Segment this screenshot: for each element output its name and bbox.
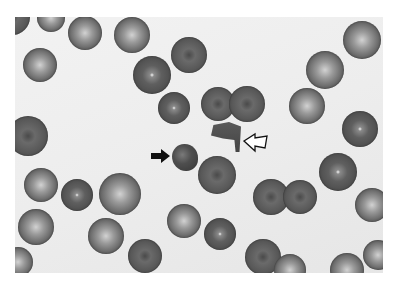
red-blood-cell <box>158 92 190 124</box>
red-blood-cell <box>15 17 30 35</box>
red-blood-cell <box>363 240 383 270</box>
red-blood-cell <box>114 17 150 53</box>
red-blood-cell <box>99 173 141 215</box>
irregular-granular-cell <box>172 144 198 171</box>
micrograph-photo <box>15 17 383 273</box>
red-blood-cell <box>229 86 265 122</box>
red-blood-cell <box>37 17 65 32</box>
red-blood-cell <box>61 179 93 211</box>
red-blood-cell <box>133 56 171 94</box>
outline-arrow-icon <box>243 133 269 155</box>
red-blood-cell <box>198 156 236 194</box>
red-blood-cell <box>171 37 207 73</box>
red-blood-cell <box>88 218 124 254</box>
red-blood-cell <box>15 247 33 273</box>
red-blood-cell <box>68 17 102 50</box>
red-blood-cell <box>274 254 306 273</box>
red-blood-cell <box>167 204 201 238</box>
red-blood-cell <box>283 180 317 214</box>
red-blood-cell <box>319 153 357 191</box>
red-blood-cell <box>342 111 378 147</box>
red-blood-cell <box>343 21 381 59</box>
red-blood-cell <box>15 116 48 156</box>
red-blood-cell <box>289 88 325 124</box>
red-blood-cell <box>330 253 364 273</box>
red-blood-cell <box>355 188 383 222</box>
red-blood-cell <box>24 168 58 202</box>
red-blood-cell <box>204 218 236 250</box>
red-blood-cell <box>306 51 344 89</box>
fragmented-red-cell <box>211 122 241 152</box>
red-blood-cell <box>18 209 54 245</box>
solid-arrow-icon <box>151 149 171 163</box>
red-blood-cell <box>128 239 162 273</box>
red-blood-cell <box>23 48 57 82</box>
